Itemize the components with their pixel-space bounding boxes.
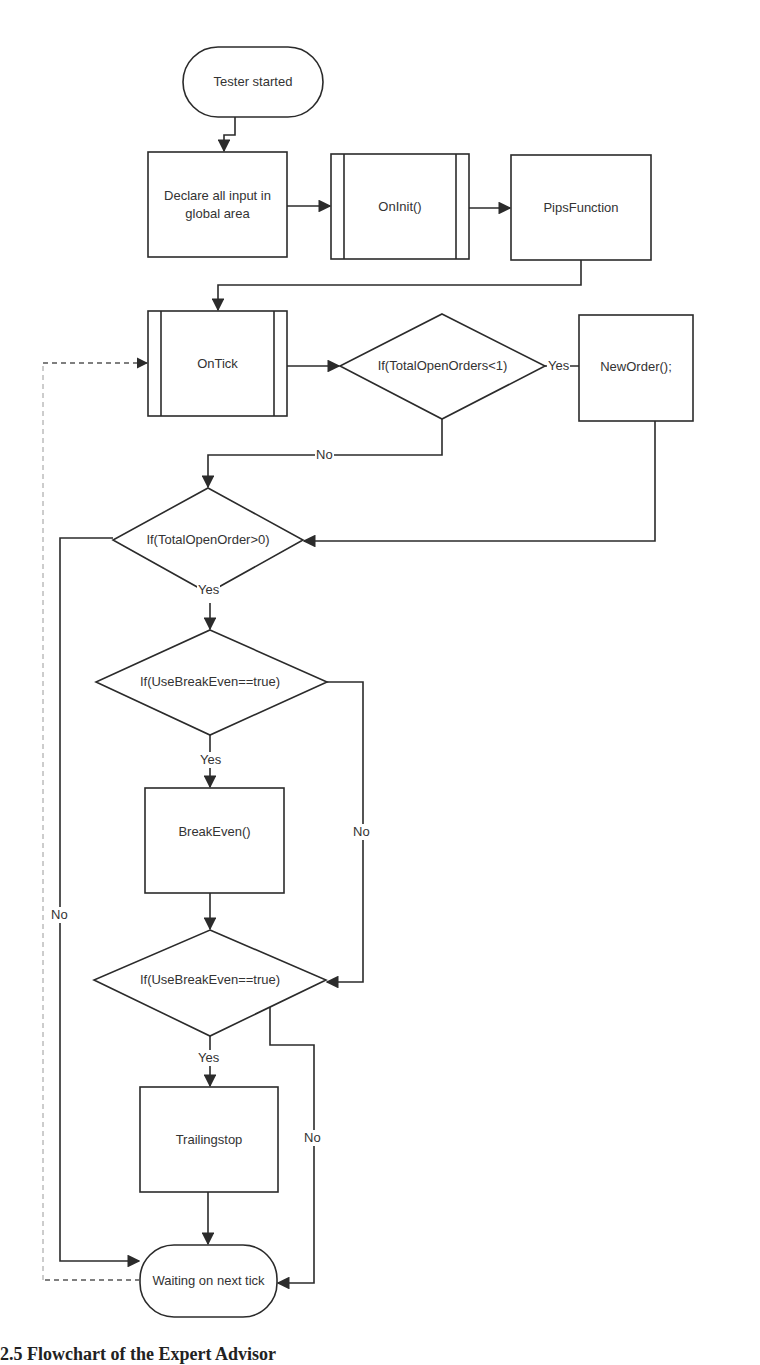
edge-label-gt0-no: No: [50, 907, 69, 923]
edge-pips-ontick: [218, 260, 581, 310]
decision-breakeven-2-label: If(UseBreakEven==true): [110, 970, 310, 990]
pips-label: PipsFunction: [511, 155, 651, 260]
decision-orders-gt0-label: If(TotalOpenOrder>0): [118, 530, 298, 550]
waiting-label: Waiting on next tick: [152, 1245, 265, 1317]
edge-label-be1-yes: Yes: [199, 752, 222, 768]
figure-caption: 2.5 Flowchart of the Expert Advisor: [0, 1344, 276, 1365]
edge-label-be1-no: No: [352, 824, 371, 840]
ontick-label: OnTick: [161, 311, 274, 416]
edge-start-declare: [224, 117, 235, 151]
edge-label-be2-no: No: [303, 1130, 322, 1146]
edge-neworder-decision2: [304, 421, 655, 541]
decision-orders-lt1-label: If(TotalOpenOrders<1): [350, 356, 535, 376]
edge-label-be2-yes: Yes: [197, 1050, 220, 1066]
edge-label-gt0-yes: Yes: [197, 582, 220, 598]
breakeven-label: BreakEven(): [145, 788, 284, 876]
trailingstop-label: Trailingstop: [140, 1087, 278, 1192]
neworder-label: NewOrder();: [579, 315, 693, 419]
declare-label: Declare all input in global area: [152, 152, 283, 257]
edge-decision2-waiting-no: [60, 538, 139, 1261]
decision-breakeven-1-label: If(UseBreakEven==true): [110, 672, 310, 692]
edge-label-lt1-no: No: [315, 447, 334, 463]
start-label: Tester started: [183, 47, 323, 117]
edge-label-lt1-yes: Yes: [547, 358, 570, 374]
oninit-label: OnInit(): [344, 154, 456, 259]
